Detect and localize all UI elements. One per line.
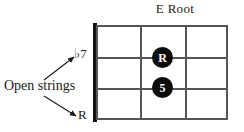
arrow-to-flat-seven bbox=[44, 57, 74, 80]
fret-line-0 bbox=[96, 25, 98, 120]
arrow-to-root bbox=[44, 96, 76, 116]
root-dot: R bbox=[152, 47, 173, 68]
fret-line-1 bbox=[140, 25, 142, 120]
fretboard-grid: R 5 bbox=[96, 25, 228, 120]
string-line-1 bbox=[96, 25, 228, 27]
open-strings-label: Open strings bbox=[4, 78, 75, 94]
fret-line-3 bbox=[226, 25, 228, 120]
interval-label-flat-seven: ♭7 bbox=[74, 46, 87, 62]
page-title: E Root bbox=[120, 1, 230, 17]
chord-diagram-figure: E Root R 5 Open strings ♭7 R bbox=[0, 0, 244, 132]
interval-label-root: R bbox=[78, 107, 87, 123]
fifth-dot: 5 bbox=[152, 77, 173, 98]
string-line-4 bbox=[96, 118, 228, 120]
fret-line-2 bbox=[185, 25, 187, 120]
